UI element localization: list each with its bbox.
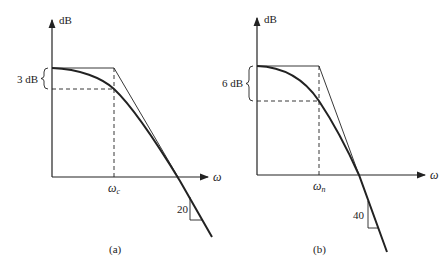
x-axis-label-b: ω [430,169,438,181]
drop-label-b: 6 dB [222,78,243,89]
corner-label-a: ωc [108,182,120,196]
response-curve-a [52,68,212,237]
corner-label-a-sub: c [116,187,120,196]
y-axis-label-a: dB [59,15,72,26]
slope-label-a: 20 [177,204,188,215]
bode-diagrams [0,0,446,269]
caption-a: (a) [109,244,121,255]
x-axis-label-a: ω [213,171,221,183]
brace-b [246,66,253,101]
corner-label-b-sub: n [321,185,325,194]
panel-b [246,18,425,252]
y-axis-label-b: dB [264,14,277,25]
caption-b: (b) [313,244,326,255]
asymptote-slope-b [319,66,359,175]
corner-label-b: ωn [313,180,325,194]
drop-label-a: 3 dB [17,74,38,85]
brace-a [41,68,48,89]
response-curve-b [257,66,387,252]
slope-label-b: 40 [353,210,364,221]
